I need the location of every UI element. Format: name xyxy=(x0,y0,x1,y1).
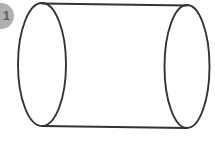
cylinder-figure xyxy=(0,0,215,142)
figure-canvas: 1 xyxy=(0,0,215,142)
